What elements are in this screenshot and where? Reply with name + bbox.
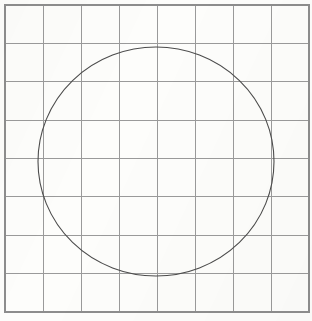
figure-canvas [0,0,312,321]
grid-lines-group [5,5,309,312]
geometry-figure [0,0,312,321]
